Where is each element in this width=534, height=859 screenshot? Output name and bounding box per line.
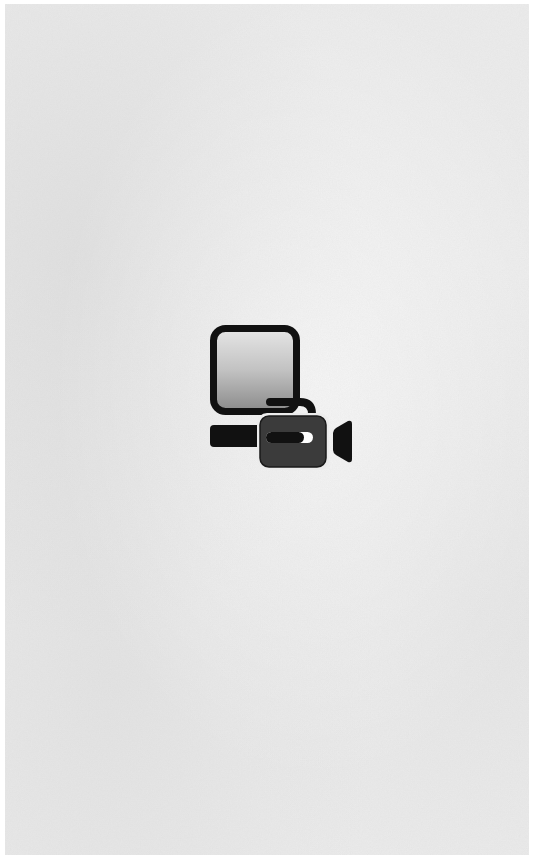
- video-camera-icon: [257, 413, 352, 470]
- computer-video-camera-icon: [205, 320, 360, 475]
